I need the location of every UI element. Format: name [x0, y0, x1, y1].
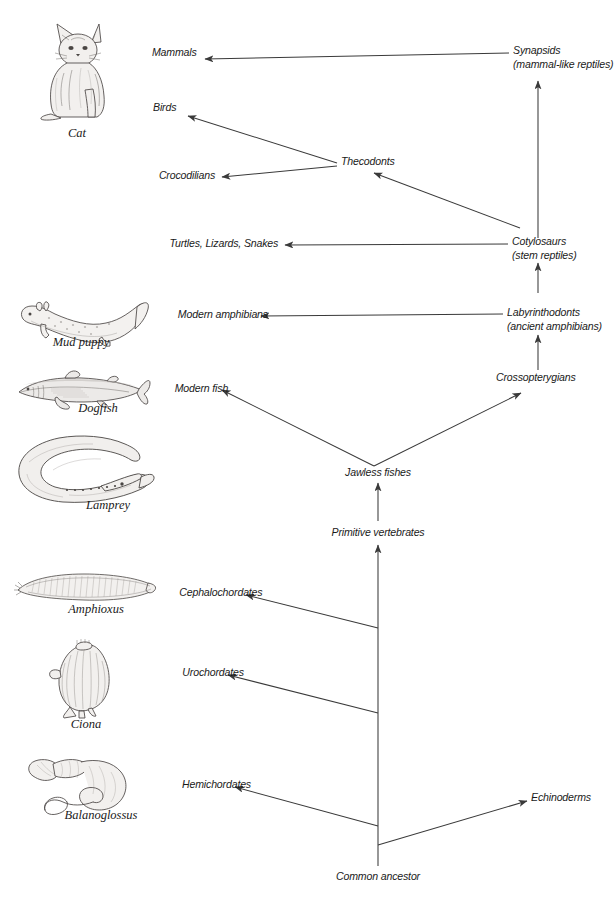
edge-thecodonts-crocodilians: [222, 166, 337, 177]
organism-caption: Mud puppy: [8, 335, 154, 350]
taxon-text: Crossopterygians: [496, 371, 576, 383]
taxon-label-crossopterygians: Crossopterygians: [496, 371, 576, 385]
taxon-label-labyrinthodonts: Labyrinthodonts (ancient amphibians): [507, 306, 602, 333]
taxon-text: Turtles, Lizards, Snakes: [169, 237, 278, 249]
edge-trunk-cephalochordates: [246, 595, 378, 628]
taxon-text: Synapsids: [513, 44, 560, 56]
edge-jawless-modernfish: [222, 390, 374, 466]
taxon-label-cotylosaurs: Cotylosaurs (stem reptiles): [512, 235, 577, 262]
edge-jawless-crossopterygians: [374, 393, 521, 466]
taxon-subtext: (stem reptiles): [512, 249, 577, 263]
taxon-text: Jawless fishes: [345, 466, 411, 478]
organism-caption: Balanoglossus: [40, 808, 162, 823]
organism-cat: Cat: [18, 18, 136, 141]
taxon-subtext: (mammal-like reptiles): [513, 58, 613, 72]
taxon-subtext: (ancient amphibians): [507, 320, 602, 334]
taxon-label-cephalochordates: Cephalochordates: [179, 586, 262, 600]
taxon-label-hemichordates: Hemichordates: [182, 778, 251, 792]
organism-amphioxus: Amphioxus: [10, 570, 160, 617]
phylogeny-diagram: Mammals Synapsids (mammal-like reptiles)…: [0, 0, 616, 906]
taxon-label-urochordates: Urochordates: [182, 666, 244, 680]
taxon-label-jawless-fishes: Jawless fishes: [340, 466, 415, 480]
edge-synapsids-mammals: [205, 53, 509, 59]
edge-cotylosaurs-thecodonts: [374, 173, 520, 228]
taxon-label-turtles-lizards-snakes: Turtles, Lizards, Snakes: [169, 237, 278, 251]
organism-caption: Ciona: [18, 717, 154, 732]
organism-lamprey: Lamprey: [8, 432, 158, 513]
taxon-text: Urochordates: [182, 666, 244, 678]
taxon-label-birds: Birds: [153, 101, 176, 115]
taxon-text: Mammals: [152, 46, 197, 58]
taxon-label-modern-amphibians: Modern amphibians: [178, 308, 268, 322]
organism-mudpuppy: Mud puppy: [8, 297, 154, 350]
organism-ciona: Ciona: [14, 637, 154, 732]
amphioxus-illustration: [12, 570, 158, 606]
taxon-label-synapsids: Synapsids (mammal-like reptiles): [513, 44, 613, 71]
cat-illustration: [31, 18, 123, 126]
organism-caption: Cat: [18, 126, 136, 141]
taxon-label-echinoderms: Echinoderms: [531, 791, 591, 805]
edge-labyrinthodonts-amphibians: [261, 314, 503, 316]
edge-cotylosaurs-turtles: [285, 244, 508, 245]
taxon-text: Modern fish: [175, 382, 228, 394]
edge-thecodonts-birds: [188, 116, 337, 163]
organism-balanoglossus: Balanoglossus: [12, 752, 162, 823]
taxon-text: Crocodilians: [159, 169, 215, 181]
organism-dogfish: Dogfish: [8, 367, 154, 416]
taxon-text: Cotylosaurs: [512, 235, 566, 247]
taxon-text: Common ancestor: [336, 870, 420, 882]
edge-trunk-hemichordates: [235, 787, 378, 826]
taxon-label-modern-fish: Modern fish: [175, 382, 228, 396]
taxon-label-crocodilians: Crocodilians: [159, 169, 215, 183]
organism-caption: Amphioxus: [32, 602, 160, 617]
taxon-label-primitive-vertebrates: Primitive vertebrates: [326, 526, 431, 540]
ciona-illustration: [36, 637, 132, 719]
taxon-text: Hemichordates: [182, 778, 251, 790]
edge-trunk-echinoderms: [378, 801, 527, 845]
taxon-text: Labyrinthodonts: [507, 306, 580, 318]
taxon-text: Modern amphibians: [178, 308, 268, 320]
edge-trunk-urochordates: [228, 675, 378, 713]
taxon-text: Birds: [153, 101, 176, 113]
taxon-label-thecodonts: Thecodonts: [341, 155, 395, 169]
taxon-text: Echinoderms: [531, 791, 591, 803]
lamprey-illustration: [9, 432, 157, 508]
taxon-text: Cephalochordates: [179, 586, 262, 598]
taxon-text: Thecodonts: [341, 155, 395, 167]
taxon-text: Primitive vertebrates: [332, 526, 425, 538]
taxon-label-mammals: Mammals: [152, 46, 197, 60]
taxon-label-common-ancestor: Common ancestor: [326, 870, 429, 884]
